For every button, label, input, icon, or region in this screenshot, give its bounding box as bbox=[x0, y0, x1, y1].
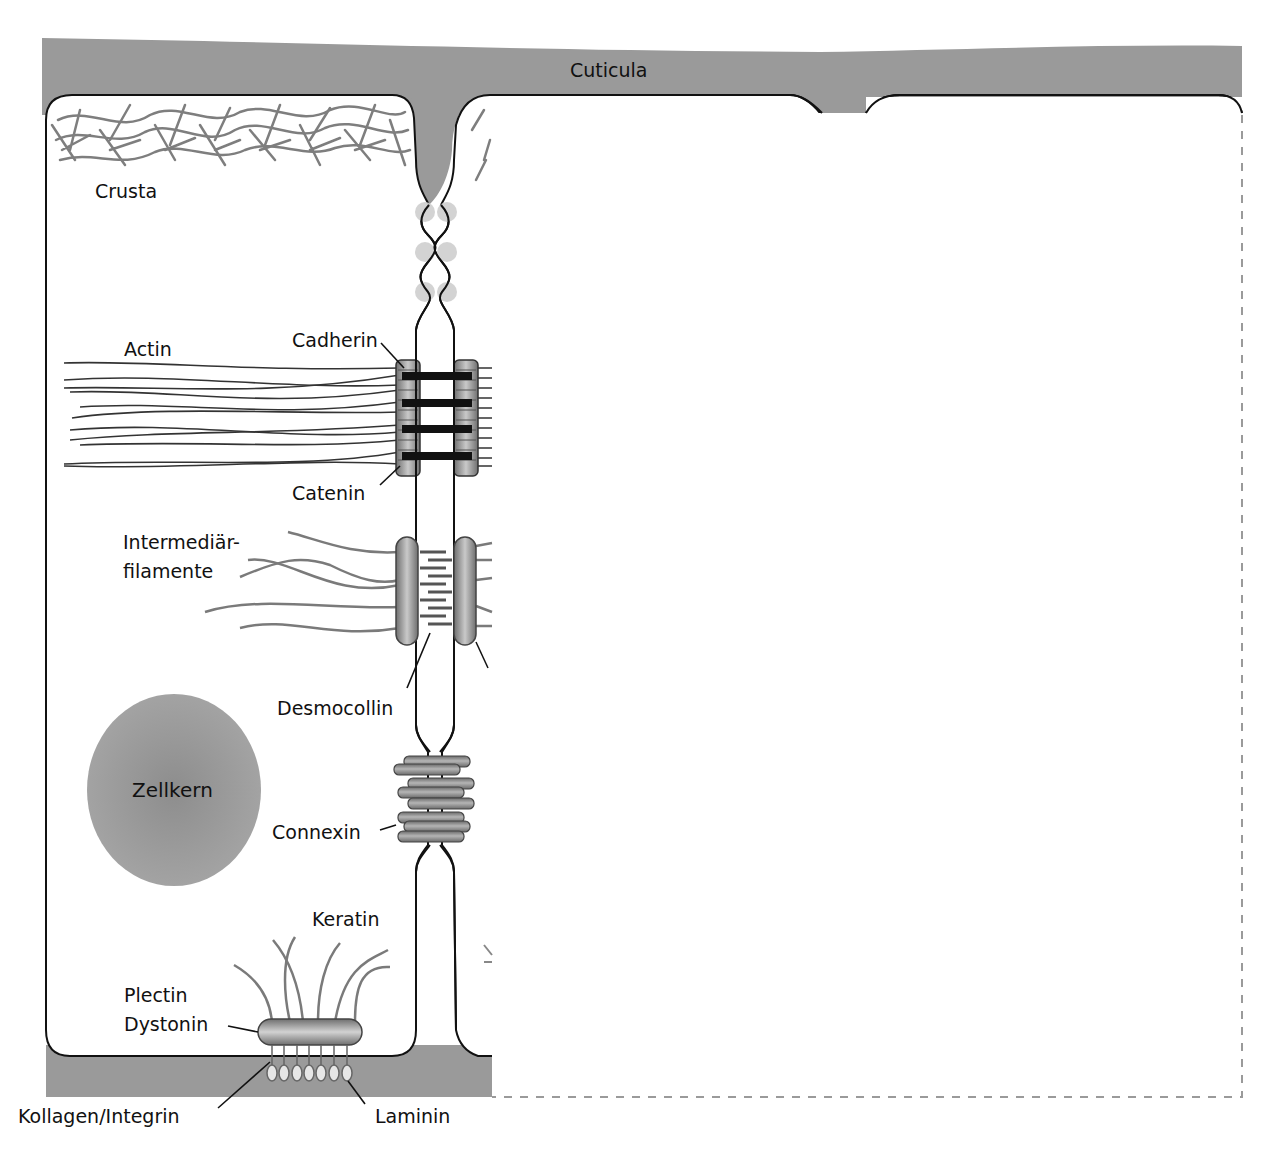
label-desmocollin: Desmocollin bbox=[277, 697, 393, 719]
label-connexin: Connexin bbox=[272, 821, 361, 843]
desmocollin-bridges bbox=[420, 552, 452, 624]
label-keratin: Keratin bbox=[312, 908, 379, 930]
label-collagen-integrin: Kollagen/Integrin bbox=[18, 1105, 180, 1127]
label-catenin: Catenin bbox=[292, 482, 365, 504]
label-actin: Actin bbox=[124, 338, 172, 360]
label-intermediate-filaments-1: Intermediär- bbox=[123, 531, 240, 553]
label-intermediate-filaments-2: filamente bbox=[123, 560, 213, 582]
label-dystonin: Dystonin bbox=[124, 1013, 208, 1035]
label-plectin: Plectin bbox=[124, 984, 188, 1006]
label-laminin: Laminin bbox=[375, 1105, 450, 1127]
cell-junction-diagram: Cuticula Crusta Actin Cadherin Catenin I… bbox=[0, 0, 1267, 1153]
label-crusta: Crusta bbox=[95, 180, 157, 202]
label-cuticula: Cuticula bbox=[570, 59, 647, 81]
plectin-dystonin-plaque bbox=[258, 1019, 362, 1045]
label-cadherin: Cadherin bbox=[292, 329, 378, 351]
label-nucleus: Zellkern bbox=[132, 778, 213, 802]
